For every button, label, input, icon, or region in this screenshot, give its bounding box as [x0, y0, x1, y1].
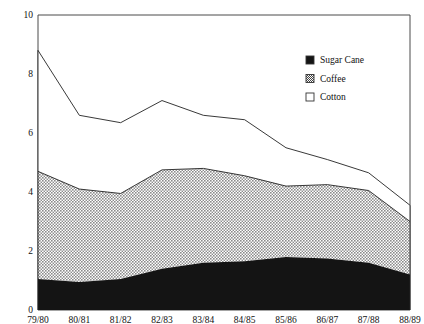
x-axis-labels: 79/8080/8181/8282/8383/8484/8585/8686/87…	[27, 315, 421, 324]
x-tick-label-84-85: 84/85	[234, 315, 256, 324]
y-tick-label-4: 4	[28, 187, 33, 197]
legend-swatch-coffee	[306, 75, 314, 83]
x-tick-label-79-80: 79/80	[27, 315, 49, 324]
y-tick-label-10: 10	[24, 10, 34, 20]
y-tick-label-0: 0	[28, 305, 33, 315]
x-tick-label-83-84: 83/84	[193, 315, 215, 324]
x-tick-label-86-87: 86/87	[317, 315, 339, 324]
y-tick-label-2: 2	[28, 246, 33, 256]
legend-label-cotton: Cotton	[320, 92, 346, 102]
legend-label-sugar-cane: Sugar Cane	[320, 55, 364, 65]
x-tick-label-81-82: 81/82	[110, 315, 132, 324]
y-axis-labels: 0246810	[24, 10, 34, 315]
x-tick-label-80-81: 80/81	[69, 315, 91, 324]
y-tick-label-6: 6	[28, 128, 33, 138]
stacked-area-chart: 0246810 79/8080/8181/8282/8383/8484/8585…	[0, 0, 424, 324]
chart-canvas: 0246810 79/8080/8181/8282/8383/8484/8585…	[0, 0, 424, 324]
legend-swatch-cotton	[306, 93, 314, 101]
y-tick-label-8: 8	[28, 69, 33, 79]
legend-label-coffee: Coffee	[320, 74, 346, 84]
area-series-group	[38, 50, 410, 310]
x-tick-label-88-89: 88/89	[399, 315, 421, 324]
x-tick-label-87-88: 87/88	[358, 315, 380, 324]
chart-legend: Sugar CaneCoffeeCotton	[306, 55, 364, 102]
x-tick-label-82-83: 82/83	[151, 315, 173, 324]
x-tick-label-85-86: 85/86	[275, 315, 297, 324]
legend-swatch-sugar-cane	[306, 56, 314, 64]
